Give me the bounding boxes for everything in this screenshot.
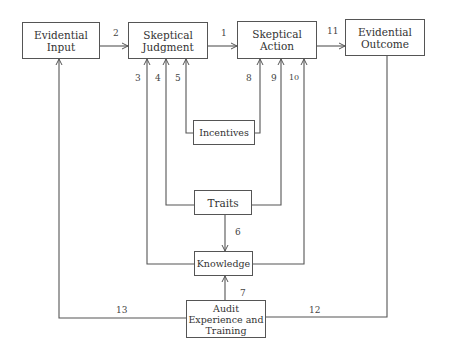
knowledge-label: Knowledge xyxy=(197,258,251,269)
label-5: 5 xyxy=(175,73,181,83)
arrow-5 xyxy=(186,59,193,133)
traits-box: Traits xyxy=(194,190,252,215)
incentives-box: Incentives xyxy=(193,120,255,145)
label-6: 6 xyxy=(235,227,241,237)
skeptical-action-box: Skeptical Action xyxy=(237,21,317,59)
evidential-input-box: Evidential Input xyxy=(22,22,100,59)
skeptical-action-label: Skeptical Action xyxy=(252,28,302,52)
arrow-13 xyxy=(59,59,186,318)
label-2: 2 xyxy=(113,28,119,38)
line-12 xyxy=(266,56,387,317)
label-12: 12 xyxy=(309,305,320,315)
evidential-outcome-label: Evidential Outcome xyxy=(358,26,412,50)
arrow-10 xyxy=(253,59,304,264)
skeptical-judgment-box: Skeptical Judgment xyxy=(128,22,208,59)
audit-experience-training-label: Audit Experience and Training xyxy=(188,303,263,336)
evidential-input-label: Evidential Input xyxy=(34,29,88,53)
label-3: 3 xyxy=(135,73,141,83)
label-1: 1 xyxy=(221,28,227,38)
incentives-label: Incentives xyxy=(199,127,249,138)
traits-label: Traits xyxy=(207,197,238,209)
label-11: 11 xyxy=(327,26,338,36)
label-10: 10 xyxy=(289,73,299,82)
label-4: 4 xyxy=(155,73,161,83)
arrow-3 xyxy=(147,59,194,264)
arrow-8 xyxy=(255,59,260,133)
label-7: 7 xyxy=(240,288,246,298)
knowledge-box: Knowledge xyxy=(194,251,253,276)
evidential-outcome-box: Evidential Outcome xyxy=(345,19,425,56)
label-13: 13 xyxy=(116,305,127,315)
label-9: 9 xyxy=(271,73,277,83)
skeptical-judgment-label: Skeptical Judgment xyxy=(142,29,194,53)
audit-experience-training-box: Audit Experience and Training xyxy=(186,300,266,338)
label-8: 8 xyxy=(246,73,252,83)
